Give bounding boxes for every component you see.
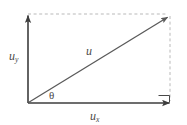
x-component-label-subscript: x	[96, 115, 99, 124]
angle-theta-label: θ	[49, 90, 54, 101]
vector-diagram-figure: uy ux u θ	[0, 0, 187, 125]
right-angle-marker	[159, 96, 170, 103]
y-component-label-subscript: y	[15, 55, 18, 64]
y-component-label: uy	[9, 50, 18, 62]
x-component-label: ux	[90, 110, 99, 122]
dashed-projection-lines	[28, 14, 170, 101]
diagram-canvas	[0, 0, 187, 125]
vector-magnitude-label: u	[86, 45, 92, 57]
